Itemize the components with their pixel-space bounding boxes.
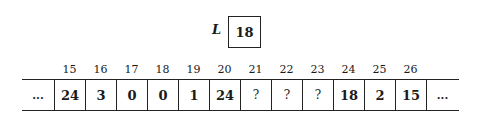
array-index: 26 — [395, 63, 426, 76]
variable-label: L — [212, 22, 221, 37]
array-index: 19 — [178, 63, 209, 76]
right-ellipsis: ... — [426, 80, 459, 110]
array-cell: 3 — [85, 80, 116, 110]
array-index: 20 — [209, 63, 240, 76]
array-cell: ? — [271, 80, 302, 110]
array-cell: ? — [302, 80, 333, 110]
array-index: 23 — [302, 63, 333, 76]
array-index: 25 — [364, 63, 395, 76]
array-cell: 24 — [54, 80, 85, 110]
array-index: 17 — [116, 63, 147, 76]
array-index: 21 — [240, 63, 271, 76]
array-index: 16 — [85, 63, 116, 76]
array-cell: 1 — [178, 80, 209, 110]
array-index: 24 — [333, 63, 364, 76]
array-index: 22 — [271, 63, 302, 76]
array-cell: 15 — [395, 80, 426, 110]
array-cell: 0 — [147, 80, 178, 110]
variable-box: 18 — [228, 16, 261, 48]
array-index: 18 — [147, 63, 178, 76]
left-ellipsis: ... — [22, 80, 54, 110]
array-strip: ... 24300124???18215... — [22, 79, 459, 111]
array-cell: 2 — [364, 80, 395, 110]
array-index: 15 — [54, 63, 85, 76]
array-cell: 24 — [209, 80, 240, 110]
array-cell: 18 — [333, 80, 364, 110]
array-cell: 0 — [116, 80, 147, 110]
array-cell: ? — [240, 80, 271, 110]
